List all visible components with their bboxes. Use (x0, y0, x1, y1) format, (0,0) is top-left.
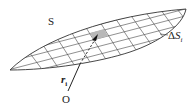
surface-label: S (48, 16, 54, 27)
vector-label-sub: i (65, 80, 67, 88)
surface-diagram (0, 0, 193, 108)
surface-grid (0, 0, 193, 88)
patch-label: ΔSi (168, 30, 183, 44)
patch-label-sub: i (181, 36, 183, 44)
position-vector-solid (68, 64, 80, 91)
position-vector-dashed (80, 38, 96, 64)
surface-outline (10, 9, 186, 70)
origin-label: O (62, 94, 70, 105)
vector-label: ri (61, 74, 67, 88)
